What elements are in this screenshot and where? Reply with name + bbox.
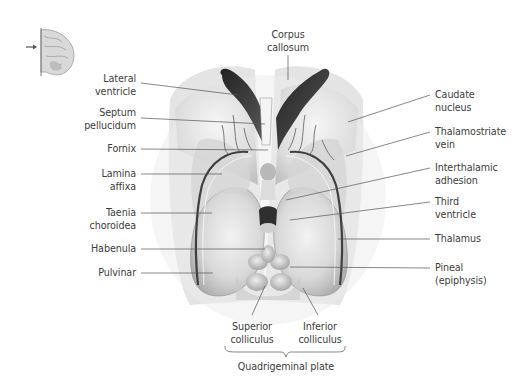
label-thalamus: Thalamus (435, 233, 481, 246)
label-thalamostriate-vein: Thalamostriate vein (435, 126, 506, 151)
label-third-ventricle: Third ventricle (435, 196, 476, 221)
label-inferior-colliculus: Inferior colliculus (290, 321, 350, 346)
label-septum-pellucidum: Septum pellucidum (84, 107, 136, 132)
label-corpus-callosum: Corpus callosum (258, 29, 318, 54)
label-pulvinar: Pulvinar (98, 267, 136, 280)
label-lateral-ventricle: Lateral ventricle (95, 73, 136, 98)
label-habenula: Habenula (91, 243, 136, 256)
anatomy-figure: Lateral ventricle Septum pellucidum Forn… (0, 0, 515, 387)
label-interthalamic-adhesion: Interthalamic adhesion (435, 162, 498, 187)
label-quadrigeminal-plate: Quadrigeminal plate (226, 361, 346, 374)
label-lamina-affixa: Lamina affixa (101, 168, 136, 193)
label-caudate-nucleus: Caudate nucleus (435, 89, 475, 114)
label-superior-colliculus: Superior colliculus (222, 321, 282, 346)
label-taenia-choroidea: Taenia choroidea (90, 207, 136, 232)
brain-orientation-icon (26, 28, 74, 76)
label-pineal: Pineal (epiphysis) (435, 262, 487, 287)
label-fornix: Fornix (107, 143, 136, 156)
brain-section (150, 66, 386, 325)
